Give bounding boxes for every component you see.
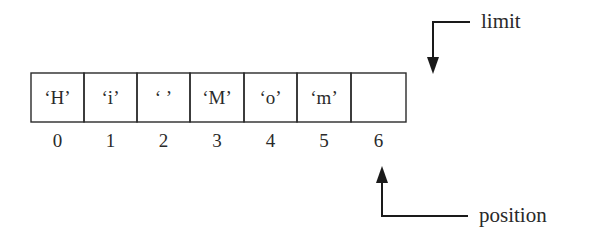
buffer-indices: 0123456 [53,130,384,151]
buffer-cell: ‘ ’ [137,73,190,122]
buffer-cell: ‘H’ [31,73,84,122]
buffer-cell-value: ‘o’ [259,87,281,108]
buffer-cell-value: ‘M’ [202,87,232,108]
buffer-cells: ‘H’‘i’‘ ’‘M’‘o’‘m’ [31,73,406,122]
buffer-index-label: 0 [53,130,63,151]
buffer-cell-value: ‘m’ [310,87,337,108]
position-pointer: position [376,166,547,227]
position-arrow-head [376,166,388,183]
buffer-index-label: 3 [212,130,222,151]
limit-arrow-head [427,57,439,74]
limit-label: limit [481,9,521,33]
buffer-index-label: 5 [319,130,329,151]
buffer-cell: ‘M’ [190,73,244,122]
buffer-cell [351,73,406,122]
buffer-index-label: 4 [266,130,276,151]
buffer-cell-value: ‘ ’ [155,87,172,108]
buffer-index-label: 1 [106,130,116,151]
limit-arrow-line [433,22,470,60]
buffer-cell: ‘i’ [84,73,137,122]
buffer-index-label: 2 [159,130,169,151]
limit-pointer: limit [427,9,521,74]
buffer-index-label: 6 [374,130,384,151]
position-label: position [479,203,547,227]
position-arrow-line [382,180,468,216]
buffer-cell: ‘m’ [297,73,351,122]
buffer-diagram: ‘H’‘i’‘ ’‘M’‘o’‘m’ 0123456 limit positio… [0,0,595,247]
buffer-cell-value: ‘H’ [44,87,70,108]
buffer-cell: ‘o’ [244,73,297,122]
buffer-cell-value: ‘i’ [102,87,120,108]
buffer-cell-box [351,73,406,122]
